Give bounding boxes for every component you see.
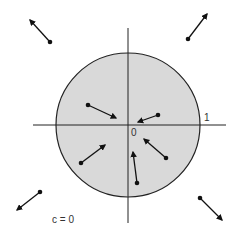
arrow-shaft: [17, 192, 40, 210]
arrow-origin-dot: [156, 113, 161, 118]
arrow-origin-dot: [135, 181, 140, 186]
arrow-origin-dot: [198, 196, 203, 201]
arrow-outer-top-left: [30, 20, 52, 44]
origin-label: 0: [131, 127, 137, 138]
unit-label: 1: [204, 112, 210, 123]
arrow-outer-top-right: [186, 14, 207, 41]
arrow-outer-bottom-right: [198, 196, 222, 220]
arrow-origin-dot: [186, 37, 191, 42]
arrow-origin-dot: [164, 156, 169, 161]
arrow-shaft: [188, 14, 207, 39]
caption-label: c = 0: [52, 214, 74, 225]
arrow-origin-dot: [48, 40, 53, 45]
vector-field-diagram: 1 0 c = 0: [0, 0, 238, 239]
arrow-origin-dot: [79, 161, 84, 166]
arrow-origin-dot: [38, 190, 43, 195]
arrow-origin-dot: [86, 103, 91, 108]
arrow-shaft: [30, 20, 50, 42]
arrow-shaft: [200, 198, 222, 220]
arrow-outer-bottom-left: [17, 190, 42, 210]
